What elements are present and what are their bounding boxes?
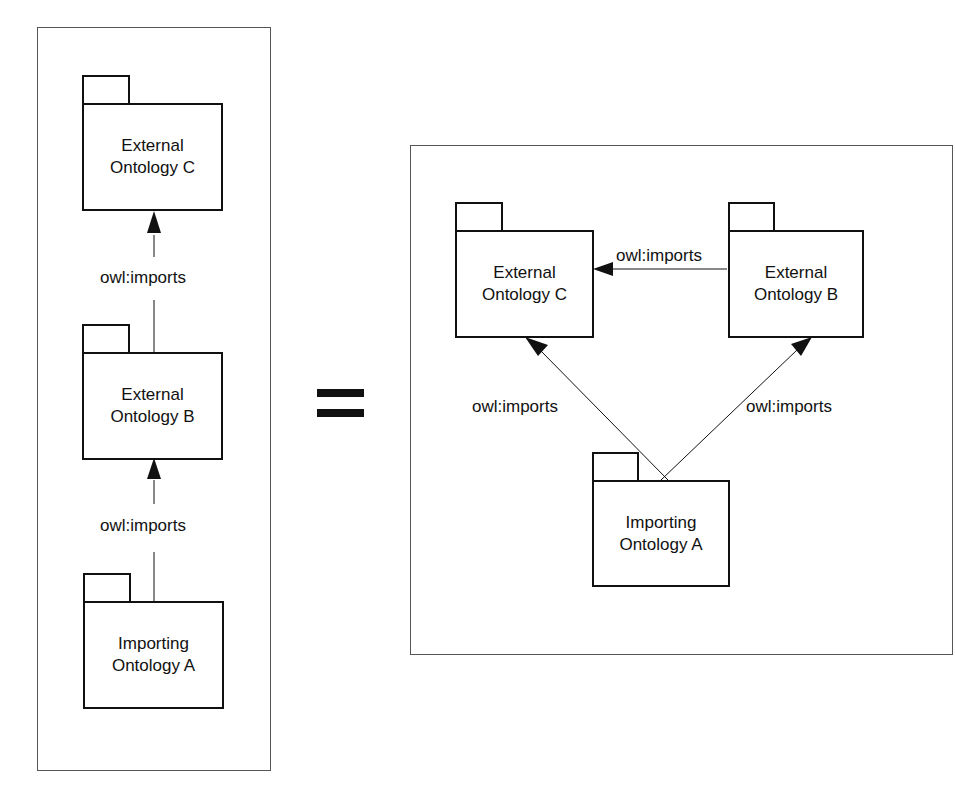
package-body: ImportingOntology A bbox=[83, 601, 224, 709]
package-label: Ontology B bbox=[110, 406, 194, 428]
package-label: Ontology A bbox=[112, 655, 195, 677]
package-tab bbox=[592, 452, 639, 482]
package-label: External bbox=[110, 384, 194, 406]
package-label: Ontology A bbox=[619, 534, 702, 556]
package-tab bbox=[455, 202, 503, 232]
package-body: ImportingOntology A bbox=[592, 480, 730, 587]
package-body: ExternalOntology C bbox=[82, 103, 223, 211]
edge-label-owl-imports: owl:imports bbox=[614, 246, 704, 266]
edge-label-owl-imports: owl:imports bbox=[744, 397, 834, 417]
package-label: External bbox=[110, 135, 195, 157]
package-label: Ontology B bbox=[754, 284, 838, 306]
package-label: Importing bbox=[619, 512, 702, 534]
package-label: Ontology C bbox=[110, 157, 195, 179]
edge-label-owl-imports: owl:imports bbox=[98, 516, 188, 536]
package-label: Ontology C bbox=[482, 284, 567, 306]
package-tab bbox=[82, 75, 130, 105]
package-body: ExternalOntology B bbox=[728, 230, 864, 338]
edge-label-owl-imports: owl:imports bbox=[470, 397, 560, 417]
package-body: ExternalOntology B bbox=[82, 352, 223, 460]
edge-label-owl-imports: owl:imports bbox=[98, 268, 188, 288]
package-tab bbox=[83, 573, 131, 603]
package-tab bbox=[728, 202, 775, 232]
package-body: ExternalOntology C bbox=[455, 230, 594, 338]
package-label: External bbox=[482, 262, 567, 284]
package-tab bbox=[82, 324, 130, 354]
arrowhead-icon bbox=[147, 458, 161, 479]
arrowhead-icon bbox=[147, 211, 161, 233]
package-label: External bbox=[754, 262, 838, 284]
package-label: Importing bbox=[112, 633, 195, 655]
